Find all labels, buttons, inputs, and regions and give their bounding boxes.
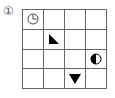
grid-cell-r1c2 xyxy=(44,10,65,30)
puzzle-grid xyxy=(22,9,107,89)
grid-cell-r2c3 xyxy=(65,30,86,50)
grid-cell-r2c1 xyxy=(23,30,44,50)
grid-cell-r1c1 xyxy=(23,10,44,30)
grid-cell-r3c4 xyxy=(86,50,107,70)
grid-cell-r3c3 xyxy=(65,50,86,70)
grid-cell-r2c4 xyxy=(86,30,107,50)
grid-cell-r3c1 xyxy=(23,50,44,70)
clock-icon xyxy=(27,13,39,25)
grid-cell-r2c2 xyxy=(44,30,65,50)
right-triangle-icon xyxy=(48,34,60,45)
grid-cell-r4c3 xyxy=(65,69,86,89)
half-filled-circle-icon xyxy=(90,53,102,65)
grid-cell-r3c2 xyxy=(44,50,65,70)
grid-cell-r4c2 xyxy=(44,69,65,89)
grid-cell-r1c4 xyxy=(86,10,107,30)
grid-cell-r4c1 xyxy=(23,69,44,89)
grid-cell-r4c4 xyxy=(86,69,107,89)
down-triangle-icon xyxy=(69,74,81,84)
grid-cell-r1c3 xyxy=(65,10,86,30)
puzzle-number-label: ① xyxy=(3,5,14,17)
